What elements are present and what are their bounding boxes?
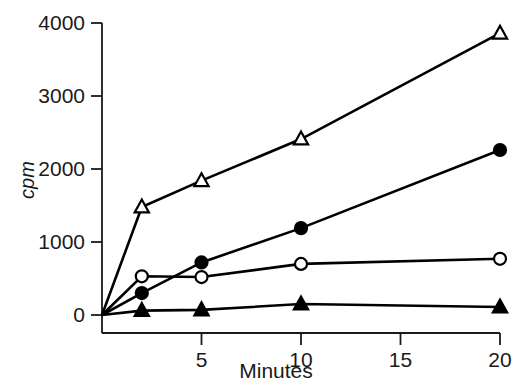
line-chart: 01000200030004000 5101520 Minutes cpm <box>0 0 527 391</box>
data-point-open-triangle <box>294 132 308 145</box>
data-point-filled-circle <box>295 222 307 234</box>
y-axis-tick-label: 3000 <box>38 84 85 107</box>
y-axis-tick-label: 2000 <box>38 157 85 180</box>
data-point-filled-circle <box>196 256 208 268</box>
data-point-open-circle <box>196 271 208 283</box>
chart-figure: 01000200030004000 5101520 Minutes cpm <box>0 0 527 391</box>
data-series-group <box>102 26 507 316</box>
y-axis: 01000200030004000 <box>38 11 102 326</box>
y-axis-tick-label: 4000 <box>38 11 85 34</box>
data-point-open-circle <box>295 258 307 270</box>
x-axis-title: Minutes <box>239 359 313 382</box>
series-filled-triangle <box>102 297 507 316</box>
x-axis-tick-label: 15 <box>389 348 412 371</box>
y-axis-title: cpm <box>16 161 38 199</box>
data-point-filled-circle <box>136 287 148 299</box>
x-axis-tick-label: 20 <box>488 348 511 371</box>
series-filled-circle <box>102 144 506 315</box>
x-axis-tick-label: 5 <box>196 348 208 371</box>
y-axis-tick-label: 1000 <box>38 230 85 253</box>
y-axis-tick-label: 0 <box>73 303 85 326</box>
data-point-open-circle <box>136 270 148 282</box>
data-point-open-circle <box>494 253 506 265</box>
data-point-filled-circle <box>494 144 506 156</box>
data-point-open-triangle <box>493 26 507 39</box>
